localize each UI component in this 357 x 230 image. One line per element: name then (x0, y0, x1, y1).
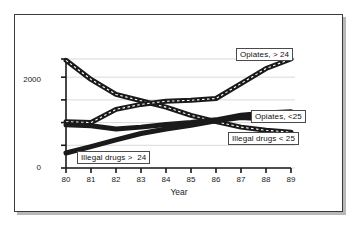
line-chart: 2000 0 80 81 82 83 84 85 86 87 88 89 Yea… (15, 15, 344, 213)
x-axis-tick-label-83: 83 (132, 175, 150, 184)
legend-label-opiates-under-25: Opiates, <25 (251, 110, 306, 123)
legend-label-illegal-drugs-over-24: Illegal drugs > 24 (77, 151, 150, 164)
x-axis-tick-label-82: 82 (107, 175, 125, 184)
x-axis-tick-label-85: 85 (182, 175, 200, 184)
x-axis-tick-label-80: 80 (57, 175, 75, 184)
x-axis-tick-label-88: 88 (257, 175, 275, 184)
screenshot-root: 2000 0 80 81 82 83 84 85 86 87 88 89 Yea… (0, 0, 357, 230)
legend-label-opiates-over-24: Opiates, > 24 (236, 48, 293, 61)
x-axis-tick-label-86: 86 (207, 175, 225, 184)
y-axis-tick-label-0: 0 (7, 163, 41, 172)
legend-label-illegal-drugs-under-25: Illegal drugs < 25 (228, 132, 299, 145)
x-axis-tick-label-84: 84 (157, 175, 175, 184)
figure-frame: 2000 0 80 81 82 83 84 85 86 87 88 89 Yea… (14, 14, 343, 212)
x-axis-tick-label-81: 81 (82, 175, 100, 184)
x-axis-title: Year (139, 187, 219, 197)
y-axis-tick-label-2000: 2000 (7, 75, 41, 84)
x-axis-tick-label-87: 87 (232, 175, 250, 184)
x-axis-tick-label-89: 89 (282, 175, 300, 184)
